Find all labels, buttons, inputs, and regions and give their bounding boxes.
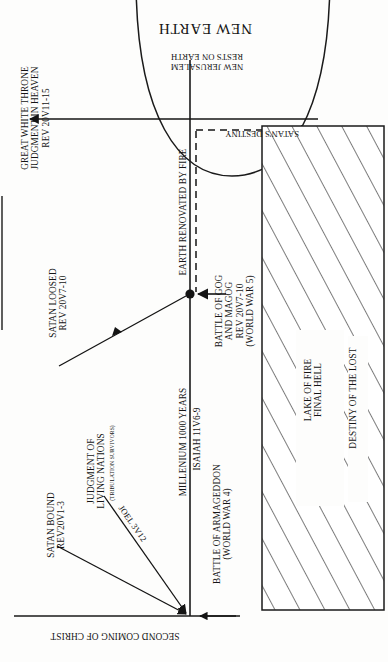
judgment-living-nations-arrow <box>104 496 186 613</box>
satan-loosed-arrow <box>59 296 186 366</box>
satan-bound-arrow <box>57 546 186 614</box>
prophecy-timeline-diagram: NEW EARTH NEW JERUSALEM RESTS ON EARTH G… <box>0 0 388 662</box>
gog-magog-node <box>185 289 194 298</box>
lake-of-fire-box <box>262 126 384 610</box>
diagram-canvas <box>0 0 388 662</box>
